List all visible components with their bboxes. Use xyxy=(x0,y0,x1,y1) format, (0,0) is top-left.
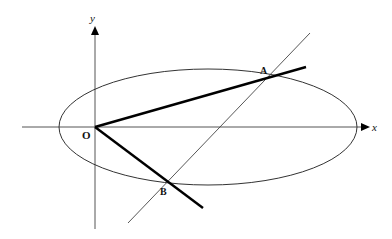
diagram-canvas: y x O A B xyxy=(0,0,392,239)
segment-oa xyxy=(95,67,306,127)
segment-ob xyxy=(95,127,203,208)
diagram-svg: y x O A B xyxy=(0,0,392,239)
x-axis-label: x xyxy=(371,121,377,133)
point-a-label: A xyxy=(260,65,268,76)
point-b-label: B xyxy=(160,186,167,197)
y-axis-arrow-icon xyxy=(91,26,99,35)
x-axis-arrow-icon xyxy=(361,123,370,131)
origin-label: O xyxy=(82,129,91,141)
chord-line-ab xyxy=(128,33,310,223)
y-axis-label: y xyxy=(89,12,95,24)
